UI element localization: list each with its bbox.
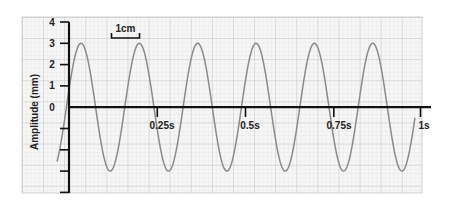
y-tick-label-1: 1 xyxy=(49,80,55,91)
scale-bar-label: 1cm xyxy=(115,23,135,34)
x-tick-label-0-75s: 0.75s xyxy=(326,120,351,131)
waveform-chart: 4 3 2 1 0 Amplitude (mm) 0.25s 0.5s 0.75… xyxy=(0,0,449,205)
y-tick-label-2: 2 xyxy=(49,59,55,70)
y-tick-label-0: 0 xyxy=(49,102,55,113)
y-tick-label-3: 3 xyxy=(49,38,55,49)
y-tick-label-4: 4 xyxy=(49,17,55,28)
x-tick-label-0-5s: 0.5s xyxy=(240,120,260,131)
y-axis-title: Amplitude (mm) xyxy=(29,74,40,150)
x-tick-label-1s: 1s xyxy=(418,120,430,131)
x-tick-label-0-25s: 0.25s xyxy=(149,120,174,131)
